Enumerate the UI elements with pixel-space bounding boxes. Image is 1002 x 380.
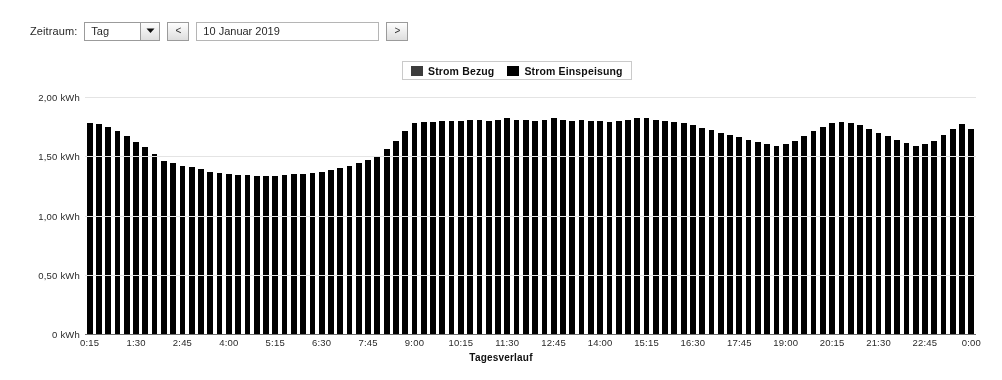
bar[interactable] — [291, 174, 297, 334]
bar[interactable] — [532, 121, 538, 334]
bar[interactable] — [198, 169, 204, 334]
bar[interactable] — [866, 129, 872, 334]
bar[interactable] — [968, 129, 974, 334]
bar[interactable] — [755, 142, 761, 334]
bar[interactable] — [430, 122, 436, 334]
bar[interactable] — [829, 123, 835, 334]
bar[interactable] — [245, 175, 251, 334]
bar[interactable] — [402, 131, 408, 334]
x-axis-tick-label: 9:00 — [405, 337, 424, 348]
bar[interactable] — [124, 136, 130, 334]
x-axis-tick-label: 15:15 — [634, 337, 659, 348]
bar[interactable] — [746, 140, 752, 334]
bar[interactable] — [727, 135, 733, 334]
gridline — [85, 156, 976, 157]
bar[interactable] — [282, 175, 288, 334]
bar[interactable] — [597, 121, 603, 334]
x-axis-tick-label: 14:00 — [588, 337, 613, 348]
bar[interactable] — [495, 120, 501, 334]
bar[interactable] — [931, 141, 937, 334]
bar[interactable] — [514, 120, 520, 334]
x-axis-tick-label: 4:00 — [219, 337, 238, 348]
bar[interactable] — [662, 121, 668, 334]
bar[interactable] — [393, 141, 399, 334]
bar[interactable] — [87, 123, 93, 334]
bar[interactable] — [226, 174, 232, 334]
bar[interactable] — [337, 168, 343, 334]
x-axis-tick-label: 5:15 — [266, 337, 285, 348]
bar[interactable] — [263, 176, 269, 334]
bar[interactable] — [105, 127, 111, 334]
bar[interactable] — [365, 160, 371, 334]
bar[interactable] — [374, 156, 380, 334]
bar[interactable] — [560, 120, 566, 334]
bar[interactable] — [885, 136, 891, 334]
bar[interactable] — [300, 174, 306, 334]
bar[interactable] — [384, 149, 390, 334]
bar[interactable] — [310, 173, 316, 334]
x-axis-tick-label: 10:15 — [449, 337, 474, 348]
bar[interactable] — [792, 141, 798, 334]
bar[interactable] — [709, 130, 715, 334]
bar[interactable] — [736, 137, 742, 334]
bar[interactable] — [820, 127, 826, 334]
bar[interactable] — [486, 121, 492, 334]
bar[interactable] — [616, 121, 622, 334]
bar[interactable] — [421, 122, 427, 334]
bar[interactable] — [551, 118, 557, 334]
bar[interactable] — [180, 166, 186, 334]
bar[interactable] — [115, 131, 121, 334]
bar[interactable] — [449, 121, 455, 334]
bar[interactable] — [922, 144, 928, 334]
bar[interactable] — [170, 163, 176, 334]
bar[interactable] — [569, 121, 575, 334]
bar[interactable] — [848, 123, 854, 334]
bar[interactable] — [783, 144, 789, 334]
bar[interactable] — [801, 136, 807, 334]
bar[interactable] — [217, 173, 223, 334]
bar[interactable] — [319, 172, 325, 334]
bar[interactable] — [950, 129, 956, 334]
bar[interactable] — [913, 146, 919, 334]
bar[interactable] — [607, 122, 613, 334]
bar[interactable] — [504, 118, 510, 334]
bar[interactable] — [189, 167, 195, 334]
bar[interactable] — [718, 133, 724, 334]
bar[interactable] — [839, 122, 845, 334]
bar[interactable] — [774, 146, 780, 334]
bar[interactable] — [699, 128, 705, 334]
bar[interactable] — [347, 166, 353, 334]
bar[interactable] — [579, 120, 585, 334]
bar[interactable] — [161, 161, 167, 334]
bar[interactable] — [254, 176, 260, 334]
bar[interactable] — [207, 172, 213, 334]
bar[interactable] — [811, 131, 817, 334]
bar[interactable] — [941, 135, 947, 334]
bar[interactable] — [681, 123, 687, 334]
bar[interactable] — [671, 122, 677, 334]
bar[interactable] — [542, 120, 548, 334]
bar[interactable] — [272, 176, 278, 334]
bar[interactable] — [142, 147, 148, 334]
bar[interactable] — [634, 118, 640, 334]
bar[interactable] — [588, 121, 594, 334]
bar[interactable] — [477, 120, 483, 334]
bar[interactable] — [644, 118, 650, 334]
bar[interactable] — [439, 121, 445, 334]
bar[interactable] — [458, 121, 464, 334]
bar[interactable] — [625, 120, 631, 334]
bar[interactable] — [904, 143, 910, 334]
bar[interactable] — [152, 154, 158, 334]
bar[interactable] — [653, 120, 659, 334]
bar[interactable] — [894, 140, 900, 334]
bar[interactable] — [764, 144, 770, 334]
bar[interactable] — [467, 120, 473, 334]
bar[interactable] — [133, 142, 139, 334]
bar[interactable] — [356, 163, 362, 334]
bar[interactable] — [412, 123, 418, 334]
x-axis-tick-label: 11:30 — [495, 337, 519, 348]
bar[interactable] — [235, 175, 241, 334]
bar[interactable] — [876, 133, 882, 334]
bar[interactable] — [523, 120, 529, 334]
bar[interactable] — [328, 170, 334, 334]
